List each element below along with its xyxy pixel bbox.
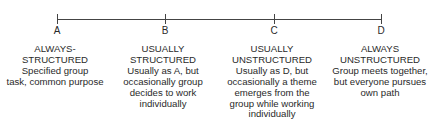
column-b-desc-line: occasionally group <box>105 77 221 88</box>
tick-d <box>381 14 382 24</box>
column-b-desc-line: decides to work <box>105 88 221 99</box>
column-a-desc-line: task, common purpose <box>0 77 113 88</box>
continuum-axis <box>57 19 382 20</box>
column-a: ALWAYS- STRUCTURED Specified group task,… <box>0 44 113 88</box>
column-d: ALWAYS UNSTRUCTURED Group meets together… <box>322 44 437 99</box>
point-label-a: A <box>47 25 67 36</box>
column-c-desc-line: occasionally a theme <box>214 77 330 88</box>
tick-a <box>57 14 58 24</box>
column-c-desc-line: emerges from the <box>214 88 330 99</box>
column-d-desc-line: own path <box>322 88 437 99</box>
point-label-c: C <box>264 25 284 36</box>
tick-b <box>165 14 166 24</box>
column-d-desc-line: but everyone pursues <box>322 77 437 88</box>
point-label-b: B <box>155 25 175 36</box>
column-b: USUALLY STRUCTURED Usually as A, but occ… <box>105 44 221 109</box>
tick-c <box>274 14 275 24</box>
column-c: USUALLY UNSTRUCTURED Usually as D, but o… <box>214 44 330 120</box>
point-label-d: D <box>371 25 391 36</box>
column-b-desc-line: individually <box>105 99 221 110</box>
column-c-desc-line: individually <box>214 109 330 120</box>
